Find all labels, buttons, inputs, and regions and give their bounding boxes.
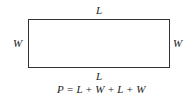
left-width-label: W [13, 37, 22, 49]
rectangle-shape [28, 19, 170, 68]
bottom-length-label: L [96, 70, 102, 82]
top-length-label: L [96, 4, 102, 16]
right-width-label: W [173, 37, 182, 49]
perimeter-formula: P = L + W + L + W [57, 83, 145, 95]
